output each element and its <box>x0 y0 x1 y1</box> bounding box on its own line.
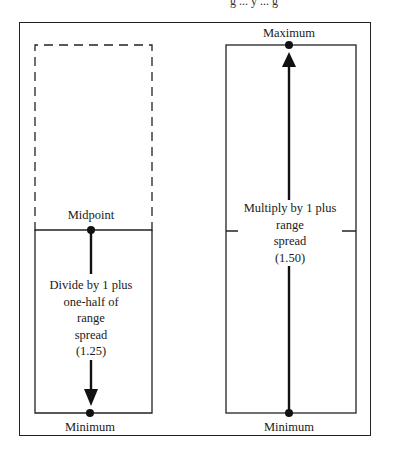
right-instruction-line: range <box>238 217 342 234</box>
left-minimum-dot <box>86 409 94 417</box>
left-instruction-text: Divide by 1 plus one-half of range sprea… <box>37 277 145 360</box>
maximum-dot <box>285 41 293 49</box>
left-minimum-label: Minimum <box>50 420 130 434</box>
midpoint-label: Midpoint <box>51 208 131 222</box>
right-instruction-line: (1.50) <box>238 250 342 267</box>
right-minimum-label: Minimum <box>249 420 329 434</box>
midpoint-dot <box>87 226 95 234</box>
left-instruction-line: (1.25) <box>37 343 145 360</box>
left-instruction-line: spread <box>37 327 145 344</box>
maximum-label: Maximum <box>249 26 329 40</box>
left-instruction-line: Divide by 1 plus <box>37 277 145 294</box>
left-dashed-upper-box <box>35 45 152 231</box>
left-instruction-line: one-half of <box>37 294 145 311</box>
right-instruction-line: Multiply by 1 plus <box>238 200 342 217</box>
right-instruction-line: spread <box>238 233 342 250</box>
left-instruction-line: range <box>37 310 145 327</box>
left-panel <box>35 45 152 417</box>
up-arrowhead-icon <box>282 52 296 67</box>
right-minimum-dot <box>285 409 293 417</box>
down-arrowhead-icon <box>84 389 98 406</box>
right-instruction-text: Multiply by 1 plus range spread (1.50) <box>238 200 342 266</box>
